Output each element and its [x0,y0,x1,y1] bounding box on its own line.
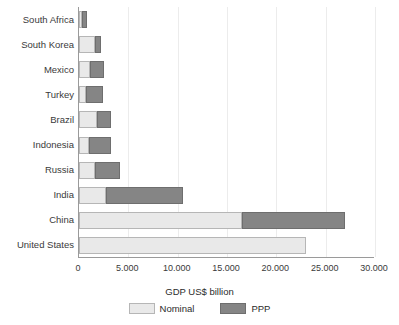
bar-segment-ppp[interactable] [89,137,111,154]
bar-segment-ppp[interactable] [242,212,346,229]
category-label: Indonesia [0,140,74,150]
bar-row[interactable] [79,162,120,179]
bar-segment-nominal[interactable] [79,36,95,53]
category-label: Mexico [0,65,74,75]
bar-row[interactable] [79,36,101,53]
bar-series-group [79,7,374,257]
legend-label-nominal: Nominal [160,303,195,314]
bar-row[interactable] [79,187,183,204]
bar-row[interactable] [79,11,87,28]
category-label: Russia [0,165,74,175]
bar-segment-ppp[interactable] [95,162,120,179]
category-label: Turkey [0,90,74,100]
category-label: United States [0,240,74,250]
category-label: Brazil [0,115,74,125]
bar-segment-nominal[interactable] [79,187,106,204]
category-label: China [0,215,74,225]
bar-segment-nominal[interactable] [79,162,95,179]
x-tick-label: 15.000 [212,262,240,274]
chart-legend: Nominal PPP [0,303,399,314]
legend-swatch-nominal-icon [129,303,155,314]
bar-segment-ppp[interactable] [97,111,110,128]
legend-item-ppp[interactable]: PPP [220,303,270,314]
x-tick-label: 5.000 [116,262,139,274]
category-label: South Korea [0,40,74,50]
gridline [375,7,376,257]
bar-segment-ppp[interactable] [86,86,102,103]
x-tick-label: 0 [75,262,80,274]
x-tick-label: 20.000 [262,262,290,274]
x-tick-label: 30.000 [360,262,388,274]
bar-segment-nominal[interactable] [79,212,242,229]
x-axis-title: GDP US$ billion [0,286,399,298]
bar-segment-ppp[interactable] [90,61,104,78]
bar-segment-nominal[interactable] [79,61,90,78]
x-axis-tick-labels: 05.00010.00015.00020.00025.00030.000 [0,262,399,276]
category-label: South Africa [0,15,74,25]
bar-row[interactable] [79,237,306,254]
x-tick-label: 25.000 [311,262,339,274]
bar-row[interactable] [79,111,111,128]
bar-row[interactable] [79,212,345,229]
bar-segment-ppp[interactable] [106,187,183,204]
legend-label-ppp: PPP [251,303,270,314]
bar-segment-nominal[interactable] [79,137,89,154]
bar-segment-nominal[interactable] [79,111,97,128]
x-tick-label: 10.000 [163,262,191,274]
bar-segment-ppp[interactable] [82,11,86,28]
bar-segment-nominal[interactable] [79,86,86,103]
legend-item-nominal[interactable]: Nominal [129,303,195,314]
category-axis-labels: South AfricaSouth KoreaMexicoTurkeyBrazi… [0,7,74,258]
gdp-stacked-bar-chart: South AfricaSouth KoreaMexicoTurkeyBrazi… [0,0,399,325]
bar-segment-ppp[interactable] [95,36,101,53]
category-label: India [0,190,74,200]
bar-row[interactable] [79,137,111,154]
bar-segment-nominal[interactable] [79,237,306,254]
bar-row[interactable] [79,86,103,103]
bar-row[interactable] [79,61,104,78]
legend-swatch-ppp-icon [220,303,246,314]
plot-area [78,7,374,258]
